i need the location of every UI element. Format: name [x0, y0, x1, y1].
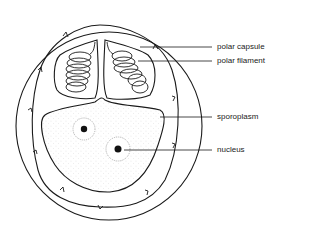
polar-capsule-right: [104, 40, 155, 99]
label-polar-filament: polar filament: [217, 56, 265, 66]
label-sporoplasm: sporoplasm: [217, 112, 258, 122]
nucleus-1: [73, 118, 95, 140]
nucleus-2: [106, 137, 130, 161]
label-polar-capsule: polar capsule: [217, 42, 265, 52]
label-nucleus: nucleus: [217, 145, 245, 155]
polar-capsule-left: [54, 40, 98, 99]
sporoplasm: [42, 98, 165, 192]
